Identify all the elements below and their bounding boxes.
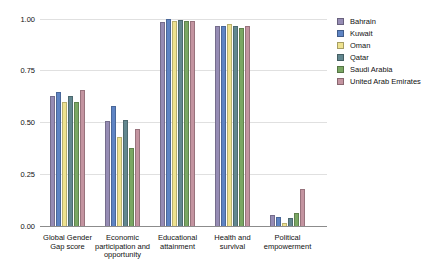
- x-category-label-political-empowerment: Politicalempowerment: [242, 234, 334, 251]
- legend-item-bahrain: Bahrain: [337, 15, 429, 27]
- bar-oman-educational-attainment: [172, 21, 177, 226]
- legend-swatch-icon: [337, 30, 344, 37]
- bar-saudi-arabia-educational-attainment: [184, 21, 189, 226]
- bar-kuwait-economic-participation-and-opportunity: [111, 106, 116, 226]
- bar-bahrain-health-and-survival: [215, 26, 220, 226]
- y-tick-label-0.25: 0.25: [4, 170, 35, 179]
- y-tick-label-0.00: 0.00: [4, 222, 35, 231]
- bar-united-arab-emirates-educational-attainment: [190, 21, 195, 226]
- legend-label: Bahrain: [350, 17, 376, 26]
- grouped-bar-chart: 1.000.750.500.250.00 Global GenderGap sc…: [0, 0, 429, 272]
- bar-united-arab-emirates-health-and-survival: [245, 26, 250, 226]
- bar-qatar-educational-attainment: [178, 20, 183, 226]
- x-category-label-line: empowerment: [242, 243, 334, 252]
- bar-bahrain-political-empowerment: [270, 215, 275, 226]
- legend-item-kuwait: Kuwait: [337, 27, 429, 39]
- legend-item-united-arab-emirates: United Arab Emirates: [337, 75, 429, 87]
- legend-swatch-icon: [337, 18, 344, 25]
- legend-label: United Arab Emirates: [350, 77, 421, 86]
- legend-swatch-icon: [337, 78, 344, 85]
- bar-oman-global-gender-gap-score: [62, 102, 67, 226]
- legend: BahrainKuwaitOmanQatarSaudi ArabiaUnited…: [337, 15, 429, 87]
- bar-bahrain-economic-participation-and-opportunity: [105, 121, 110, 226]
- legend-swatch-icon: [337, 54, 344, 61]
- bar-kuwait-health-and-survival: [221, 26, 226, 226]
- legend-item-qatar: Qatar: [337, 51, 429, 63]
- bar-bahrain-global-gender-gap-score: [50, 96, 55, 226]
- y-tick-label-0.50: 0.50: [4, 118, 35, 127]
- legend-item-oman: Oman: [337, 39, 429, 51]
- bar-saudi-arabia-global-gender-gap-score: [74, 102, 79, 226]
- bar-oman-economic-participation-and-opportunity: [117, 137, 122, 226]
- legend-label: Saudi Arabia: [350, 65, 393, 74]
- bar-bahrain-educational-attainment: [160, 22, 165, 226]
- x-category-label-line: opportunity: [77, 251, 169, 260]
- bar-oman-political-empowerment: [282, 223, 287, 226]
- bar-qatar-global-gender-gap-score: [68, 96, 73, 226]
- y-tick-label-1.00: 1.00: [4, 15, 35, 24]
- bar-qatar-economic-participation-and-opportunity: [123, 120, 128, 226]
- legend-label: Qatar: [350, 53, 369, 62]
- y-tick-label-0.75: 0.75: [4, 66, 35, 75]
- legend-swatch-icon: [337, 42, 344, 49]
- legend-item-saudi-arabia: Saudi Arabia: [337, 63, 429, 75]
- bar-saudi-arabia-political-empowerment: [294, 213, 299, 226]
- bar-qatar-health-and-survival: [233, 26, 238, 226]
- bar-qatar-political-empowerment: [288, 218, 293, 226]
- bar-saudi-arabia-health-and-survival: [239, 28, 244, 226]
- plot-area: [40, 19, 327, 226]
- legend-label: Kuwait: [350, 29, 373, 38]
- bar-oman-health-and-survival: [227, 24, 232, 226]
- bar-kuwait-global-gender-gap-score: [56, 92, 61, 226]
- bar-united-arab-emirates-political-empowerment: [300, 189, 305, 226]
- legend-swatch-icon: [337, 66, 344, 73]
- legend-label: Oman: [350, 41, 370, 50]
- bar-kuwait-educational-attainment: [166, 19, 171, 226]
- bar-kuwait-political-empowerment: [276, 217, 281, 226]
- gridline-1.00: [40, 19, 327, 20]
- bar-united-arab-emirates-global-gender-gap-score: [80, 90, 85, 226]
- bar-saudi-arabia-economic-participation-and-opportunity: [129, 148, 134, 226]
- bar-united-arab-emirates-economic-participation-and-opportunity: [135, 129, 140, 226]
